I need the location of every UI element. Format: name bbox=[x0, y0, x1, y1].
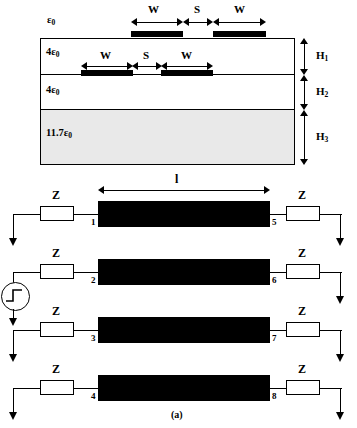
cross-section-stack bbox=[40, 38, 295, 165]
transmission-line-2 bbox=[98, 259, 270, 285]
arrow-head-bottom bbox=[300, 159, 308, 165]
left-impedance-z[interactable] bbox=[40, 322, 74, 337]
right-impedance-z[interactable] bbox=[286, 206, 320, 221]
transmission-line-1 bbox=[98, 201, 270, 227]
left-connect-wire bbox=[74, 330, 98, 331]
step-voltage-source[interactable] bbox=[1, 282, 30, 311]
right-connect-wire bbox=[270, 272, 286, 273]
port-number-6: 6 bbox=[272, 275, 277, 285]
arrow-bar bbox=[304, 42, 305, 71]
left-connect-wire bbox=[74, 214, 98, 215]
left-ground-wire-vertical bbox=[13, 330, 14, 356]
right-impedance-label: Z bbox=[298, 362, 306, 377]
top-dim-label-w-right: W bbox=[234, 3, 245, 15]
arrow-bar bbox=[187, 22, 209, 23]
right-ground-wire-vertical bbox=[340, 272, 341, 298]
right-ground-arrow bbox=[336, 412, 344, 420]
port-number-4: 4 bbox=[91, 391, 96, 401]
left-connect-wire bbox=[74, 272, 98, 273]
port-number-5: 5 bbox=[272, 217, 277, 227]
left-ground-arrow bbox=[9, 354, 17, 362]
top-dim-arrow-w-left bbox=[131, 18, 183, 27]
h-base: H bbox=[316, 85, 325, 97]
h-subscript: 1 bbox=[325, 54, 329, 63]
left-ground-wire-vertical bbox=[13, 214, 14, 240]
eps-subscript: 0 bbox=[56, 50, 60, 59]
right-ground-wire-vertical bbox=[340, 330, 341, 356]
height-arrow-h2 bbox=[300, 75, 309, 110]
substrate-layer bbox=[40, 110, 295, 165]
port-number-7: 7 bbox=[272, 333, 277, 343]
left-impedance-z[interactable] bbox=[40, 206, 74, 221]
dielectric-layer-2 bbox=[40, 75, 295, 110]
right-impedance-label: Z bbox=[298, 188, 306, 203]
arrow-head-right bbox=[260, 18, 266, 26]
left-impedance-label: Z bbox=[52, 188, 60, 203]
port-number-3: 3 bbox=[91, 333, 96, 343]
transmission-line-4 bbox=[98, 375, 270, 401]
left-impedance-label: Z bbox=[52, 362, 60, 377]
embedded-dim-label-s: S bbox=[143, 49, 149, 61]
left-impedance-label: Z bbox=[52, 304, 60, 319]
step-waveform-icon bbox=[2, 283, 27, 308]
eps-prefix: 11.7 bbox=[46, 127, 64, 138]
left-ground-wire-vertical bbox=[13, 388, 14, 414]
permittivity-label-layer-2: 4ε0 bbox=[46, 84, 60, 97]
right-impedance-label: Z bbox=[298, 304, 306, 319]
top-dim-label-s: S bbox=[194, 3, 200, 15]
figure-caption: (a) bbox=[171, 409, 183, 420]
height-label-h1: H1 bbox=[316, 49, 328, 63]
top-conductor-left bbox=[131, 31, 183, 37]
left-wire-horizontal bbox=[13, 214, 40, 215]
right-ground-arrow bbox=[336, 296, 344, 304]
left-connect-wire bbox=[74, 388, 98, 389]
top-conductor-right bbox=[213, 31, 266, 37]
right-ground-wire-vertical bbox=[340, 214, 341, 240]
height-arrow-h1 bbox=[300, 38, 309, 75]
right-connect-wire bbox=[270, 214, 286, 215]
arrow-bar bbox=[304, 79, 305, 106]
permittivity-label-layer-1: 4ε0 bbox=[46, 46, 60, 59]
arrow-bar bbox=[135, 22, 179, 23]
h-base: H bbox=[316, 49, 325, 61]
permittivity-label-air: ε0 bbox=[47, 14, 55, 27]
eps-prefix: 4 bbox=[46, 84, 51, 95]
arrow-bar bbox=[102, 190, 266, 191]
right-connect-wire bbox=[270, 388, 286, 389]
length-label-l: l bbox=[175, 172, 178, 187]
height-label-h3: H3 bbox=[316, 130, 328, 144]
right-ground-arrow bbox=[336, 238, 344, 246]
port-number-1: 1 bbox=[91, 217, 96, 227]
arrow-bar bbox=[165, 66, 209, 67]
embedded-dim-label-w-right: W bbox=[181, 49, 192, 61]
right-impedance-z[interactable] bbox=[286, 322, 320, 337]
left-wire-horizontal bbox=[13, 272, 40, 273]
right-impedance-z[interactable] bbox=[286, 380, 320, 395]
length-arrow-l bbox=[98, 186, 270, 195]
transmission-line-3 bbox=[98, 317, 270, 343]
figure-multilayer-coupled-line: W S W ε0 4ε0 4ε0 11.7ε0 W S W bbox=[0, 0, 357, 428]
left-ground-arrow bbox=[9, 238, 17, 246]
embedded-conductor-right bbox=[161, 70, 213, 76]
left-wire-horizontal bbox=[13, 330, 40, 331]
top-dim-label-w-left: W bbox=[148, 3, 159, 15]
right-connect-wire bbox=[270, 330, 286, 331]
arrow-head-right bbox=[207, 62, 213, 70]
embedded-dim-arrow-s bbox=[132, 62, 162, 71]
left-wire-horizontal bbox=[13, 388, 40, 389]
left-impedance-z[interactable] bbox=[40, 380, 74, 395]
arrow-bar bbox=[85, 66, 129, 67]
arrow-bar bbox=[136, 66, 158, 67]
arrow-bar bbox=[217, 22, 262, 23]
right-impedance-z[interactable] bbox=[286, 264, 320, 279]
right-ground-arrow bbox=[336, 354, 344, 362]
right-impedance-label: Z bbox=[298, 246, 306, 261]
eps-subscript: 0 bbox=[68, 131, 72, 140]
h-subscript: 2 bbox=[325, 90, 329, 99]
arrow-bar bbox=[304, 114, 305, 161]
right-wire-horizontal bbox=[320, 388, 342, 389]
top-dim-arrow-w-right bbox=[213, 18, 266, 27]
right-ground-wire-vertical bbox=[340, 388, 341, 414]
eps-prefix: 4 bbox=[46, 46, 51, 57]
left-impedance-z[interactable] bbox=[40, 264, 74, 279]
